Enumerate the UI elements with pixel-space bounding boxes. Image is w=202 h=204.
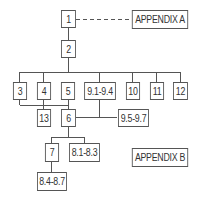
- connector-lines: [0, 0, 202, 204]
- node-8-4-8-7: 8.4-8.7: [37, 172, 67, 191]
- node-11: 11: [150, 82, 164, 100]
- node-2: 2: [61, 40, 76, 58]
- node-7: 7: [45, 143, 59, 162]
- node-1: 1: [61, 10, 76, 28]
- node-5: 5: [61, 82, 75, 100]
- node-6: 6: [61, 109, 76, 127]
- node-8-1-8-3: 8.1-8.3: [69, 143, 100, 162]
- node-13: 13: [37, 109, 51, 127]
- node-9-1-9-4: 9.1-9.4: [84, 82, 116, 100]
- node-10: 10: [126, 82, 140, 100]
- hierarchy-diagram: 1 2 APPENDIX A 3 4 5 9.1-9.4 10 11 12 13…: [0, 0, 202, 204]
- node-3: 3: [13, 82, 27, 100]
- node-4: 4: [37, 82, 51, 100]
- node-9-5-9-7: 9.5-9.7: [118, 109, 149, 127]
- node-12: 12: [173, 82, 188, 100]
- node-appendix-a: APPENDIX A: [132, 10, 188, 29]
- node-appendix-b: APPENDIX B: [132, 148, 188, 167]
